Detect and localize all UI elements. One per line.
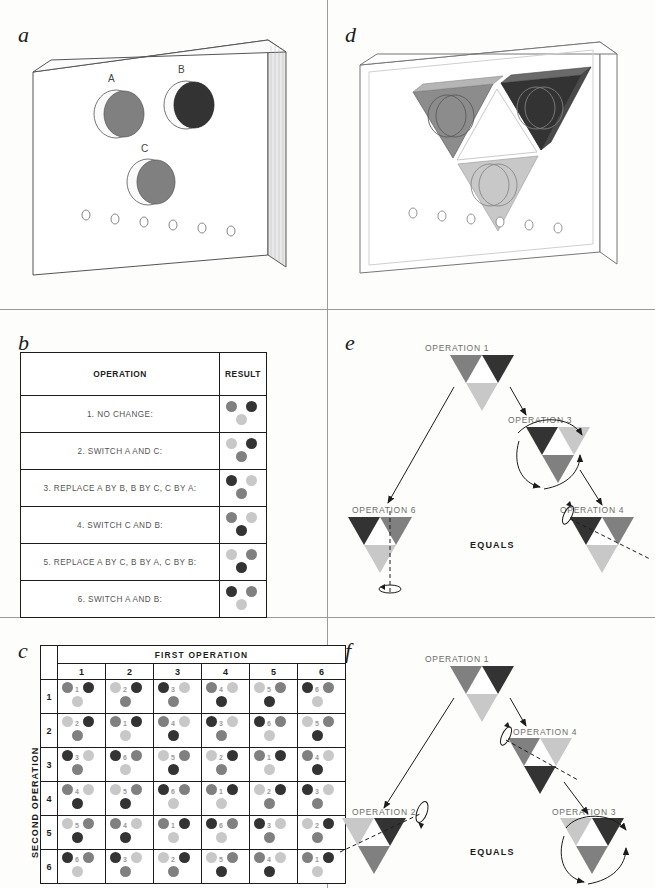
row-number-3: 3 (41, 748, 58, 782)
disk-c (312, 866, 323, 877)
cayley-cell: 1 (58, 680, 106, 714)
cell-result-number: 5 (267, 686, 271, 693)
disk-b (246, 586, 257, 597)
cayley-cell: 5 (154, 748, 202, 782)
disk-a (254, 750, 265, 761)
column-number-4: 4 (202, 664, 250, 680)
disk-b (179, 784, 190, 795)
disk-a (254, 682, 265, 693)
cayley-cell: 6 (202, 816, 250, 850)
disk-a (62, 818, 73, 829)
cayley-cell: 5 (106, 782, 154, 816)
cell-result-number: 6 (123, 754, 127, 761)
disk-c (312, 730, 323, 741)
disk-a (206, 784, 217, 795)
cell-result-number: 2 (123, 686, 127, 693)
disk-c (120, 696, 131, 707)
disk-c (168, 866, 179, 877)
cayley-table: FIRST OPERATION 123456 11234562214365336… (40, 645, 346, 884)
disk-a (62, 682, 73, 693)
column-number-2: 2 (106, 664, 154, 680)
disk-c (236, 414, 247, 425)
disk-c (72, 764, 83, 775)
panel-f-triangle-result (342, 818, 406, 874)
cell-result-number: 1 (75, 686, 79, 693)
disk-c (120, 798, 131, 809)
table-row: 5541632 (41, 816, 346, 850)
disk-a (254, 852, 265, 863)
panel-f-triangle-start (450, 666, 514, 722)
disk-b (83, 750, 94, 761)
disk-b (275, 716, 286, 727)
disk-a (302, 750, 313, 761)
cell-result-number: 1 (171, 822, 175, 829)
disk-b (131, 750, 142, 761)
disk-c (236, 525, 247, 536)
triangle-bottom (586, 545, 618, 573)
cell-result-number: 2 (219, 754, 223, 761)
disk-b (83, 682, 94, 693)
cayley-cell: 4 (202, 680, 250, 714)
cayley-cell: 5 (202, 850, 250, 884)
cell-result-number: 2 (267, 788, 271, 795)
disk-a (158, 818, 169, 829)
cayley-cell: 4 (250, 850, 298, 884)
panel-e-triangle-second (570, 517, 634, 573)
disk-c (236, 599, 247, 610)
disk-a (110, 818, 121, 829)
hole-b-label: B (178, 64, 185, 75)
cell-result-number: 2 (315, 822, 319, 829)
disk-a (206, 716, 217, 727)
cell-result-number: 2 (171, 856, 175, 863)
table-row: 1123456 (41, 680, 346, 714)
disk-c (216, 730, 227, 741)
disk-c (72, 866, 83, 877)
cell-result-number: 4 (75, 788, 79, 795)
operation-description: 3. REPLACE A BY B, B BY C, C BY A: (21, 470, 220, 507)
disk-a (254, 818, 265, 829)
second-operation-axis-label: SECOND OPERATION (30, 747, 40, 858)
cayley-cell: 1 (250, 748, 298, 782)
cayley-cell: 5 (250, 680, 298, 714)
disk-a (62, 750, 73, 761)
disk-a (226, 586, 237, 597)
table-row: 4456123 (41, 782, 346, 816)
disk-a (302, 784, 313, 795)
first-operation-header: FIRST OPERATION (58, 646, 346, 664)
table-row: 5. REPLACE A BY C, B BY A, C BY B: (21, 544, 267, 581)
disk-c (216, 798, 227, 809)
table-row: 3. REPLACE A BY B, B BY C, C BY A: (21, 470, 267, 507)
panel-f-triangle-step (508, 738, 572, 794)
column-number-3: 3 (154, 664, 202, 680)
panel-label-c: c (18, 638, 28, 664)
panel-e-diagram: OPERATION 1 OPERATION 3 OPERATION 4 OPER… (330, 315, 655, 615)
disk-c (236, 451, 247, 462)
table-row: 3365214 (41, 748, 346, 782)
disk-b (131, 818, 142, 829)
disk-a (226, 512, 237, 523)
cell-result-number: 3 (267, 822, 271, 829)
result-disks (220, 470, 267, 507)
disk-b (179, 852, 190, 863)
panel-d-board (355, 30, 630, 280)
disk-a (226, 475, 237, 486)
disk-c (168, 798, 179, 809)
panel-e-spin-icons (379, 501, 576, 593)
disk-c (168, 730, 179, 741)
operations-table-body: 1. NO CHANGE:2. SWITCH A AND C:3. REPLAC… (21, 396, 267, 618)
disk-a (254, 784, 265, 795)
cayley-cell: 2 (106, 680, 154, 714)
disk-a (110, 750, 121, 761)
disk-a (302, 682, 313, 693)
disk-b (131, 852, 142, 863)
disk-b (275, 784, 286, 795)
disk-c (264, 832, 275, 843)
cayley-cell: 6 (106, 748, 154, 782)
operation-description: 4. SWITCH C AND B: (21, 507, 220, 544)
cell-result-number: 3 (219, 720, 223, 727)
result-disks (220, 507, 267, 544)
cayley-cell: 1 (202, 782, 250, 816)
result-disks (220, 433, 267, 470)
disk-c (216, 764, 227, 775)
operation-column-header: OPERATION (21, 353, 220, 396)
